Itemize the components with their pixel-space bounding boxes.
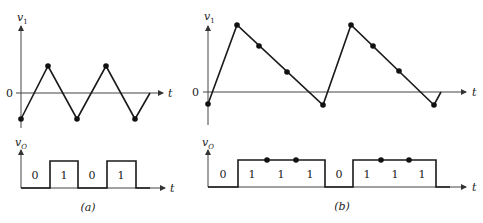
panel-caption: (b) [334, 200, 350, 213]
digital-output-waveform [21, 161, 150, 188]
svg-text:1: 1 [419, 168, 426, 181]
svg-text:0: 0 [336, 168, 343, 181]
zero-label: 0 [192, 86, 199, 99]
svg-text:1: 1 [307, 168, 314, 181]
y-axis-label: vO [15, 136, 27, 151]
svg-text:1: 1 [364, 168, 371, 181]
svg-text:1: 1 [118, 169, 125, 182]
sample-points [205, 22, 437, 108]
panel-caption: (a) [80, 201, 95, 214]
svg-text:1: 1 [61, 169, 68, 182]
svg-text:1: 1 [249, 168, 256, 181]
panel-b-output-plot: vO t 0 1 1 1 0 1 1 1 (b) [202, 136, 477, 213]
bit-labels: 0 1 1 1 0 1 1 1 [220, 168, 426, 181]
panel-a-input-plot: v1 t 0 [6, 11, 173, 128]
svg-text:0: 0 [220, 168, 227, 181]
x-axis-label: t [472, 181, 477, 194]
zero-label: 0 [6, 87, 13, 100]
y-axis-label: v1 [17, 11, 28, 26]
svg-text:0: 0 [32, 169, 39, 182]
svg-text:0: 0 [89, 169, 96, 182]
y-axis-label: v1 [204, 10, 215, 25]
panel-a-output-plot: vO t 0 1 0 1 (a) [15, 136, 175, 214]
sawtooth-waveform [208, 25, 441, 105]
svg-text:1: 1 [392, 168, 399, 181]
x-axis-label: t [168, 87, 173, 100]
y-axis-label: vO [202, 136, 214, 151]
x-axis-label: t [170, 182, 175, 195]
x-axis-label: t [472, 86, 477, 99]
panel-b-input-plot: v1 t 0 [192, 10, 477, 125]
waveform-diagram: v1 t 0 vO t 0 1 0 1 (a) v1 t 0 [0, 0, 483, 223]
digital-output-waveform [208, 160, 450, 187]
svg-text:1: 1 [278, 168, 285, 181]
